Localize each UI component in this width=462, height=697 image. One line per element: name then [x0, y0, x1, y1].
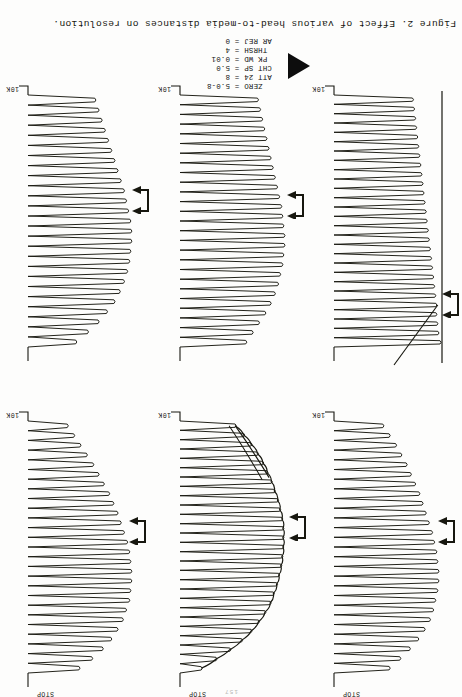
chart-stop-label: STOP: [189, 690, 206, 697]
chart-start-label: 10K: [6, 85, 19, 92]
param-value: 4: [196, 45, 230, 54]
chart-bottom-left: 10KSTOP: [316, 395, 456, 695]
peak-arrow-marker: [279, 513, 309, 541]
chart-top-right: 10K: [10, 69, 150, 369]
chart-top-middle: 10K: [162, 69, 302, 369]
param-key: AR REJ: [244, 35, 286, 44]
peak-arrow-marker: [277, 191, 307, 219]
scanned-page: 157 Figure 2. Effect of various head-to-…: [0, 0, 462, 697]
param-key: PK WD: [244, 54, 286, 63]
chart-stop-label: STOP: [343, 690, 360, 697]
peak-arrow-marker: [428, 517, 458, 545]
chart-start-label: 10K: [158, 411, 171, 418]
chart-start-label: 10K: [312, 411, 325, 418]
chart-start-label: 10K: [312, 85, 325, 92]
param-key: THRSH: [244, 45, 286, 54]
param-row: AR REJ = 0: [196, 35, 286, 44]
chart-top-left: 10K: [316, 69, 456, 369]
param-row: THRSH = 4: [196, 45, 286, 54]
chart-stop-label: STOP: [37, 690, 54, 697]
param-row: PK WD = 0.01: [196, 54, 286, 63]
param-value: 0: [196, 35, 230, 44]
peak-arrow-marker: [432, 290, 462, 318]
chart-bottom-middle: 10KSTOP: [162, 395, 302, 695]
peak-arrow-marker: [119, 517, 149, 545]
param-equals: =: [230, 35, 244, 44]
param-equals: =: [230, 45, 244, 54]
figure-caption: Figure 2. Effect of various head-to-medi…: [4, 18, 456, 29]
chart-bottom-right: 10KSTOP: [10, 395, 150, 695]
chart-start-label: 10K: [6, 411, 19, 418]
param-value: 0.01: [196, 54, 230, 63]
chart-start-label: 10K: [158, 85, 171, 92]
param-equals: =: [230, 54, 244, 63]
peak-arrow-marker: [122, 186, 152, 214]
